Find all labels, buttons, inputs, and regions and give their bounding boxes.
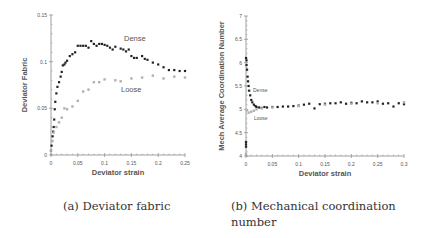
y-tick-label: 0.15 [37,12,47,18]
y-tick-label: 5 [239,106,242,112]
x-tick-label: 0.3 [401,161,408,167]
x-tick-label: 0.1 [101,160,108,166]
y-tick-label: 6.5 [235,36,242,42]
series-dense [245,57,405,148]
deviator-fabric-plot: 00.050.10.1500.050.10.150.20.25Deviator … [0,0,215,180]
x-tick-label: 0.25 [373,161,383,167]
annotation-loose: Loose [254,115,268,121]
x-tick-label: 0.05 [267,161,277,167]
y-axis-label: Deviator Fabric [20,58,29,113]
y-tick-label: 0.05 [37,105,47,111]
annotation-dense: Dense [253,87,268,93]
y-tick-label: 7 [239,13,242,19]
y-tick-label: 4.5 [235,130,242,136]
annotation-dense: Dense [124,34,146,43]
x-tick-label: 0.05 [73,160,83,166]
series-loose [245,101,405,155]
caption-b-line1: (b) Mechanical coordination [231,198,396,214]
y-tick-label: 0.1 [40,59,47,65]
caption-a: (a) Deviator fabric [63,198,170,214]
x-tick-label: 0.15 [127,160,137,166]
x-tick-label: 0.25 [180,160,190,166]
y-tick-label: 5.5 [235,83,242,89]
y-tick-label: 4 [239,153,242,159]
coordination-number-plot: 44.555.566.5700.050.10.150.20.250.3Devia… [215,0,429,180]
y-tick-label: 6 [239,60,242,66]
y-tick-label: 0 [44,152,47,158]
x-tick-label: 0 [245,161,248,167]
caption-a-text: (a) Deviator fabric [63,199,170,213]
x-axis-label: Deviator strain [299,169,352,178]
caption-b-line2: number [231,214,396,230]
x-tick-label: 0.2 [155,160,162,166]
x-tick-label: 0.15 [320,161,330,167]
x-tick-label: 0 [50,160,53,166]
y-axis-label: Mech Average Coordination Number [217,21,226,151]
x-axis-label: Deviator strain [92,168,145,177]
caption-b: (b) Mechanical coordination number [231,198,396,230]
chart-coordination-number: 44.555.566.5700.050.10.150.20.250.3Devia… [215,0,429,180]
annotation-loose: Loose [121,85,141,94]
chart-deviator-fabric: 00.050.10.1500.050.10.150.20.25Deviator … [0,0,215,180]
series-dense [50,40,186,151]
x-tick-label: 0.2 [348,161,355,167]
x-tick-label: 0.1 [295,161,302,167]
series-loose [50,74,186,151]
